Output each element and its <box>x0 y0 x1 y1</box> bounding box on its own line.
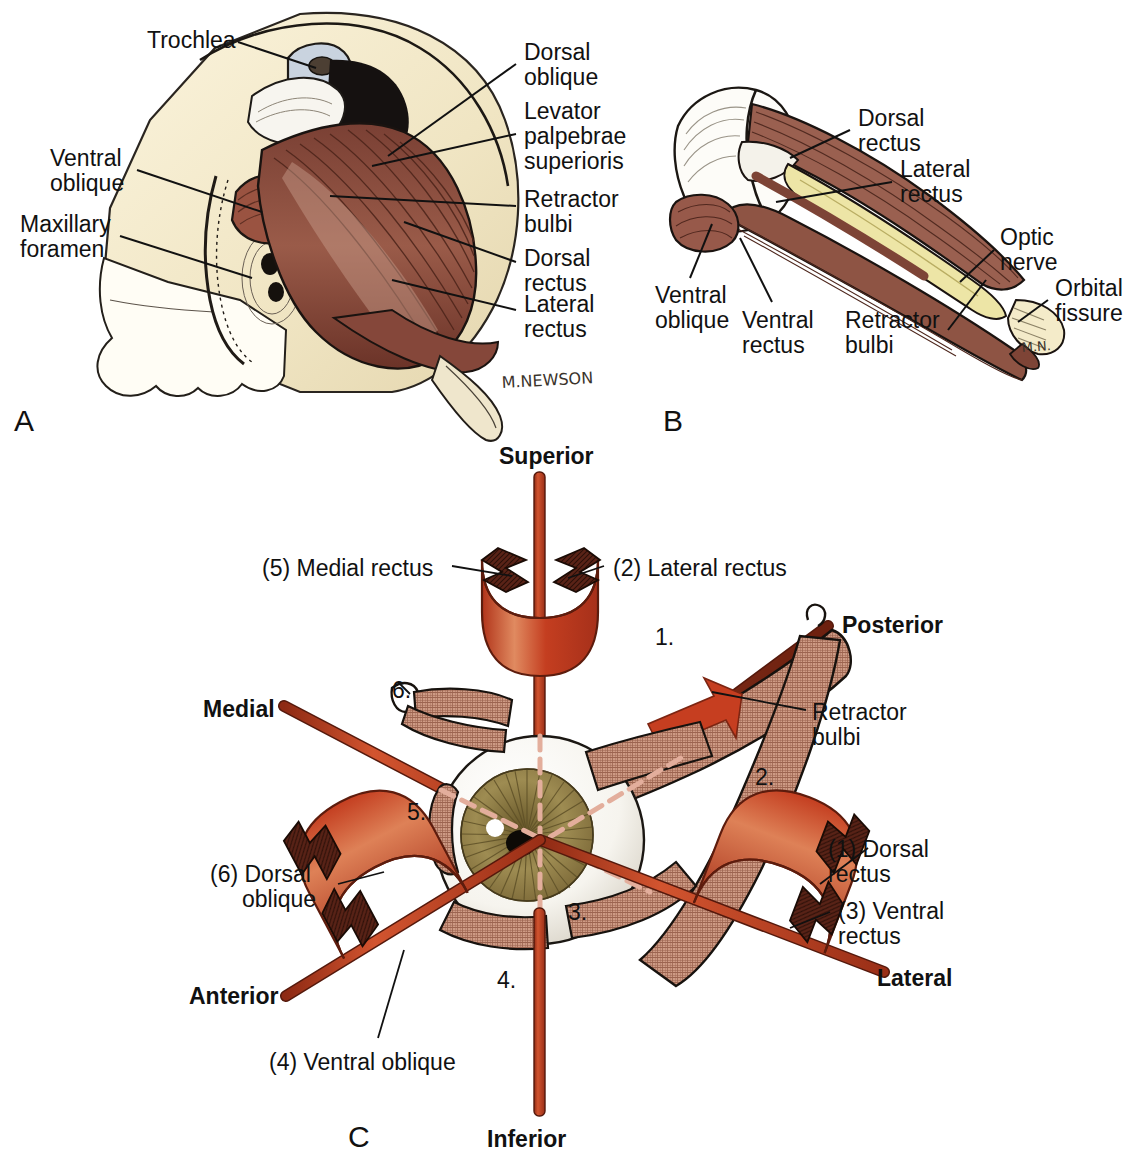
panel-c-axis-posterior: Posterior <box>842 613 943 638</box>
panel-a-label-maxillary-foramen: Maxillary foramen <box>20 212 111 262</box>
panel-c-callout-5: 5. <box>407 800 426 825</box>
panel-a-label-dorsal-rectus: Dorsal rectus <box>524 246 590 296</box>
panel-c-label-medial-rectus: (5) Medial rectus <box>262 556 433 581</box>
panel-a-signature: M.NEWSON <box>501 368 593 392</box>
panel-a-label-ventral-oblique: Ventral oblique <box>50 146 124 196</box>
panel-b-label-optic-nerve: Optic nerve <box>1000 225 1058 275</box>
medial-rectus-arrowhead <box>482 548 528 592</box>
panel-c-callout-2: 2. <box>755 765 774 790</box>
panel-c-label-ventral-rectus: (3) Ventral rectus <box>838 899 944 949</box>
panel-a-letter: A <box>14 404 34 438</box>
panel-b-signature: M.N. <box>1021 338 1051 355</box>
panel-a-label-retractor-bulbi: Retractor bulbi <box>524 187 619 237</box>
panel-c-callout-4: 4. <box>497 968 516 993</box>
panel-c-axis-superior: Superior <box>499 444 594 469</box>
panel-a-label-levator-palpebrae-superioris: Levator palpebrae superioris <box>524 99 626 174</box>
panel-b-label-orbital-fissure: Orbital fissure <box>1055 276 1123 326</box>
panel-b-label-retractor-bulbi: Retractor bulbi <box>845 308 940 358</box>
panel-c-label-ventral-oblique: (4) Ventral oblique <box>269 1050 456 1075</box>
axis-rod-inferior <box>534 908 545 1116</box>
panel-c-axis-anterior: Anterior <box>189 984 278 1009</box>
panel-a-label-trochlea: Trochlea <box>147 28 236 53</box>
panel-a-illustration <box>97 13 518 441</box>
panel-c-label-retractor-bulbi: Retractor bulbi <box>812 700 907 750</box>
panel-b-label-lateral-rectus: Lateral rectus <box>900 157 970 207</box>
panel-c-axis-lateral: Lateral <box>877 966 952 991</box>
panel-c-callout-3: 3. <box>568 900 587 925</box>
panel-a-label-lateral-rectus: Lateral rectus <box>524 292 594 342</box>
panel-c-label-lateral-rectus: (2) Lateral rectus <box>613 556 787 581</box>
panel-c-label-dorsal-rectus: (1) Dorsal rectus <box>828 837 929 887</box>
panel-b-label-dorsal-rectus: Dorsal rectus <box>858 106 924 156</box>
panel-c-callout-6: 6. <box>392 678 411 703</box>
panel-c-letter: C <box>348 1120 370 1154</box>
panel-b-letter: B <box>663 404 683 438</box>
panel-b-label-ventral-rectus: Ventral rectus <box>742 308 814 358</box>
panel-c-callout-1: 1. <box>655 625 674 650</box>
panel-c-axis-medial: Medial <box>203 697 275 722</box>
panel-b-label-ventral-oblique: Ventral oblique <box>655 283 729 333</box>
panel-c-axis-inferior: Inferior <box>487 1127 566 1152</box>
panel-c-label-dorsal-oblique: (6) Dorsal oblique <box>210 862 316 912</box>
panel-a-label-dorsal-oblique: Dorsal oblique <box>524 40 598 90</box>
